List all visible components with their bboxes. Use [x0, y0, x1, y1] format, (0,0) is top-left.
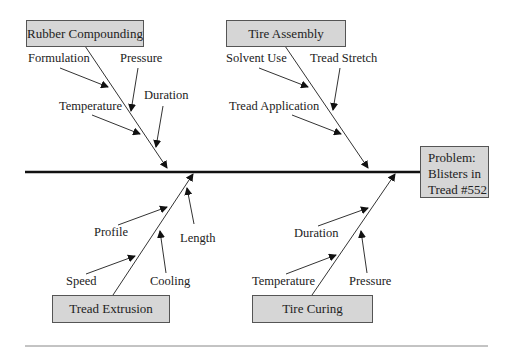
cause-temperature-curing: Temperature [252, 274, 315, 289]
category-box-tire-curing: Tire Curing [252, 295, 373, 323]
problem-line-1: Problem: [428, 150, 476, 166]
problem-box: Problem: Blisters in Tread #552 [420, 146, 489, 198]
problem-line-2: Blisters in [428, 166, 481, 182]
category-label: Tread Extrusion [69, 301, 153, 317]
cause-pressure: Pressure [120, 51, 162, 66]
category-label: Tire Curing [282, 301, 343, 317]
cause-tread-stretch: Tread Stretch [310, 51, 377, 66]
category-label: Tire Assembly [248, 26, 324, 42]
cause-profile: Profile [94, 225, 128, 240]
cause-duration-curing: Duration [294, 226, 338, 241]
cause-formulation: Formulation [28, 51, 90, 66]
category-label: Rubber Compounding [27, 26, 143, 42]
cause-length: Length [180, 231, 215, 246]
problem-line-3: Tread #552 [428, 182, 487, 198]
cause-temperature: Temperature [59, 99, 122, 114]
cause-solvent-use: Solvent Use [226, 51, 287, 66]
category-box-tire-assembly: Tire Assembly [226, 20, 346, 47]
cause-pressure-curing: Pressure [349, 274, 391, 289]
cause-speed: Speed [66, 274, 97, 289]
cause-cooling: Cooling [150, 274, 190, 289]
category-box-rubber-compounding: Rubber Compounding [26, 20, 144, 47]
cause-tread-application: Tread Application [229, 99, 319, 114]
cause-duration: Duration [144, 88, 188, 103]
category-box-tread-extrusion: Tread Extrusion [52, 295, 170, 323]
